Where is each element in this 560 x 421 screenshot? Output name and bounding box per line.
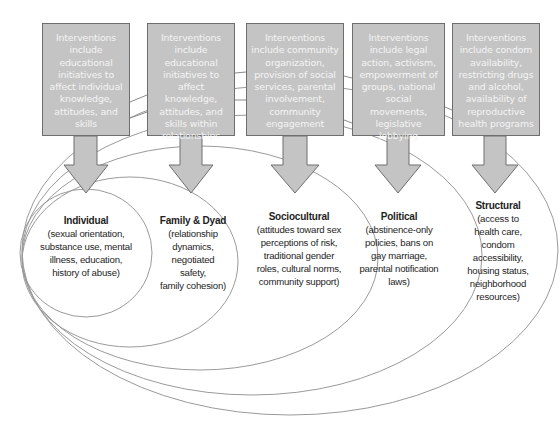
level-description: (sexual orientation, substance use, ment… — [32, 227, 140, 279]
intervention-box-individual: Interventions include educational initia… — [42, 23, 130, 136]
intervention-box-political: Interventions include legal action, acti… — [352, 23, 445, 136]
level-title: Sociocultural — [250, 210, 348, 223]
level-title: Political — [355, 210, 443, 223]
intervention-box-sociocultural: Interventions include community organiza… — [246, 23, 344, 136]
arrow-down-icon — [64, 136, 108, 193]
level-description: (attitudes toward sex perceptions of ris… — [250, 223, 348, 288]
level-title: Family & Dyad — [158, 214, 228, 227]
arrow-down-icon — [472, 136, 518, 193]
level-description: (access to health care, condom accessibi… — [460, 212, 536, 303]
intervention-box-structural: Interventions include condom availabilit… — [452, 23, 540, 136]
level-description: (abstinence-only policies, bans on gay m… — [355, 223, 443, 288]
intervention-text: Interventions include legal action, acti… — [359, 32, 437, 141]
intervention-box-family-dyad: Interventions include educational initia… — [147, 23, 235, 136]
arrow-down-icon — [271, 136, 319, 193]
arrow-down-icon — [375, 136, 421, 193]
level-political: Political (abstinence-only policies, ban… — [355, 210, 443, 288]
level-description: (relationship dynamics, negotiated safet… — [158, 227, 228, 292]
level-structural: Structural (access to health care, condo… — [460, 199, 536, 303]
level-title: Structural — [460, 199, 536, 212]
intervention-text: Interventions include educational initia… — [159, 32, 222, 141]
level-individual: Individual (sexual orientation, substanc… — [32, 214, 140, 279]
intervention-text: Interventions include condom availabilit… — [458, 32, 533, 129]
level-title: Individual — [32, 214, 140, 227]
level-sociocultural: Sociocultural (attitudes toward sex perc… — [250, 210, 348, 288]
intervention-text: Interventions include community organiza… — [251, 32, 338, 129]
intervention-text: Interventions include educational initia… — [50, 32, 123, 129]
level-family-dyad: Family & Dyad (relationship dynamics, ne… — [158, 214, 228, 292]
